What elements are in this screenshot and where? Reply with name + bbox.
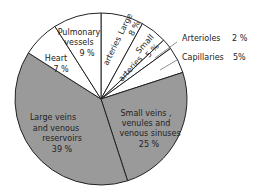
label-small-veins-3: venous sinuses — [119, 129, 180, 138]
label-small-veins-1: Small veins , — [121, 109, 172, 118]
label-arterioles-pct: 2 % — [232, 34, 248, 43]
label-arterioles-name: Arterioles — [182, 34, 221, 43]
label-pulmonary-name-2: vessels — [64, 38, 93, 47]
label-small-veins-2: venules and — [122, 119, 171, 128]
label-heart-pct: 7 % — [53, 65, 69, 74]
label-large-veins-2: and venous — [33, 124, 79, 133]
pie-chart: Pulmonary vessels 9 % Heart 7 % Large 8 … — [0, 0, 253, 195]
label-capillaries-name: Capillaries — [182, 53, 224, 62]
label-capillaries-pct: 5% — [233, 53, 246, 62]
label-pulmonary-pct: 9 % — [79, 49, 95, 58]
label-large-veins-1: Large veins — [30, 113, 76, 122]
label-heart-name: Heart — [45, 54, 67, 63]
label-large-veins-pct: 39 % — [52, 145, 73, 154]
label-small-veins-pct: 25 % — [139, 140, 160, 149]
label-pulmonary-name-1: Pulmonary — [58, 28, 101, 37]
pie-slices — [15, 13, 187, 185]
label-large-veins-3: reservoirs — [42, 134, 82, 143]
